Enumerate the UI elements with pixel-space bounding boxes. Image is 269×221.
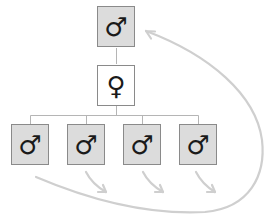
female-symbol-icon: ♀	[106, 73, 125, 99]
family-tree-diagram: ♂ ♀ ♂ ♂ ♂ ♂	[0, 0, 269, 221]
son-node-4: ♂	[179, 124, 217, 165]
male-symbol-icon: ♂	[130, 132, 153, 158]
mother-node: ♀	[97, 65, 135, 106]
son-node-3: ♂	[123, 124, 161, 165]
male-symbol-icon: ♂	[74, 132, 97, 158]
male-symbol-icon: ♂	[18, 132, 41, 158]
short-arrows	[86, 172, 215, 192]
son-node-1: ♂	[11, 124, 49, 165]
return-arrow	[36, 31, 263, 212]
father-node: ♂	[97, 6, 135, 47]
male-symbol-icon: ♂	[186, 132, 209, 158]
son-node-2: ♂	[67, 124, 105, 165]
male-symbol-icon: ♂	[104, 14, 127, 40]
